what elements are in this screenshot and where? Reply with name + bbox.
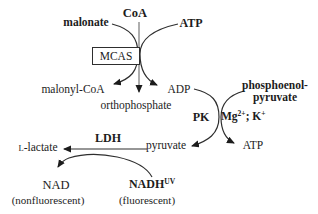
k-base: ; K: [246, 110, 262, 122]
nadh-base: NADH: [129, 177, 164, 191]
nadh-superscript: UV: [164, 177, 175, 186]
label-pyruvate: pyruvate: [146, 140, 186, 152]
label-adp: ADP: [167, 84, 190, 96]
label-cofactors-mg-k: Mg2+; K+: [221, 111, 266, 123]
k-superscript: +: [261, 109, 265, 118]
label-atp-product: ATP: [243, 140, 263, 152]
pathway-diagram: CoA malonate ATP MCAS malonyl-CoA orthop…: [0, 0, 318, 214]
label-malonate: malonate: [63, 17, 108, 29]
label-phosphoenol-line2: pyruvate: [253, 92, 297, 104]
label-ldh-enzyme: LDH: [95, 132, 121, 144]
label-nadh-note: (fluorescent): [119, 195, 175, 206]
nadh-to-nad-curve: [58, 154, 152, 177]
lactate-rest: -lactate: [24, 141, 58, 153]
atp-to-adp-curve: [140, 24, 178, 85]
label-orthophosphate: orthophosphate: [101, 100, 172, 112]
label-coa: CoA: [123, 7, 147, 20]
label-malonyl-coa: malonyl-CoA: [41, 84, 104, 96]
label-phosphoenol-line1: phosphoenol-: [242, 80, 308, 92]
label-l-lactate: L-lactate: [18, 142, 57, 154]
label-nad-note: (nonfluorescent): [12, 195, 85, 206]
label-nadh: NADHUV: [129, 178, 175, 190]
mcas-enzyme-box: MCAS: [92, 47, 140, 65]
mg-superscript: 2+: [238, 109, 246, 118]
label-pk-enzyme: PK: [193, 111, 210, 123]
label-atp-substrate: ATP: [179, 17, 202, 29]
label-mcas: MCAS: [100, 50, 133, 62]
mg-base: Mg: [221, 110, 238, 122]
label-nad: NAD: [42, 179, 69, 192]
